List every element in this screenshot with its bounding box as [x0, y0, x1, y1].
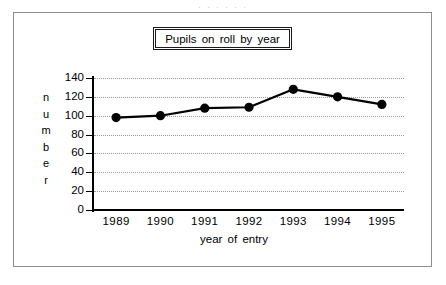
data-point-marker [289, 85, 298, 94]
data-point-marker [333, 92, 342, 101]
chart-title-inner-border: Pupils on roll by year [155, 29, 290, 48]
y-tick-mark [86, 78, 93, 79]
x-tick-label: 1990 [135, 215, 185, 227]
y-axis-title-letter: b [39, 139, 53, 156]
y-axis-title-letter: u [39, 106, 53, 123]
data-point-marker [244, 103, 253, 112]
y-axis-title-letter: e [39, 155, 53, 172]
y-tick-mark [86, 191, 93, 192]
y-tick-label: 120 [50, 91, 84, 103]
data-point-marker [156, 111, 165, 120]
y-tick-label: 140 [50, 72, 84, 84]
y-tick-mark [86, 135, 93, 136]
chart-title-text: Pupils on roll by year [165, 33, 280, 45]
y-axis-title: number [39, 89, 53, 188]
x-tick-label: 1991 [180, 215, 230, 227]
x-tick-label: 1995 [357, 215, 407, 227]
y-axis-title-letter: n [39, 89, 53, 106]
y-tick-label: 20 [50, 185, 84, 197]
y-axis-title-letter: r [39, 172, 53, 189]
y-tick-mark [86, 97, 93, 98]
data-point-marker [377, 100, 386, 109]
y-tick-label: 60 [50, 147, 84, 159]
y-axis-title-letter: m [39, 122, 53, 139]
y-tick-mark [86, 116, 93, 117]
x-tick-label: 1993 [268, 215, 318, 227]
data-point-marker [112, 113, 121, 122]
x-tick-label: 1989 [91, 215, 141, 227]
y-tick-label: 80 [50, 129, 84, 141]
data-series-line [94, 78, 404, 210]
y-tick-label: 0 [50, 204, 84, 216]
x-axis-title-text: year of entry [200, 233, 268, 245]
chart-title-box: Pupils on roll by year [153, 27, 292, 50]
x-axis-title: year of entry [0, 233, 446, 245]
data-point-marker [200, 104, 209, 113]
y-tick-mark [86, 172, 93, 173]
figure-page: . . . . . . Pupils on roll by year 02040… [0, 0, 446, 285]
y-tick-label: 100 [50, 110, 84, 122]
y-tick-mark [86, 210, 93, 211]
x-tick-label: 1994 [313, 215, 363, 227]
y-tick-mark [86, 153, 93, 154]
y-tick-label: 40 [50, 166, 84, 178]
x-tick-label: 1992 [224, 215, 274, 227]
